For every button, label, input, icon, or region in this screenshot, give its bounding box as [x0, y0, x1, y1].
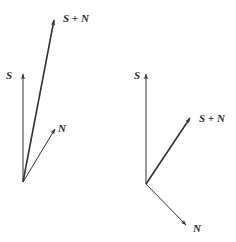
label-n-right: N	[193, 223, 201, 234]
vector-s-plus-n-right	[146, 118, 190, 184]
label-s-right: S	[134, 70, 140, 81]
label-s-plus-n-left: S + N	[63, 13, 89, 24]
label-s-plus-n-right: S + N	[199, 113, 225, 124]
diagram-left	[23, 20, 55, 182]
diagram-right	[146, 74, 190, 225]
vector-n-right	[146, 184, 186, 225]
label-n-left: N	[58, 123, 66, 134]
vector-s-plus-n-left	[23, 20, 54, 182]
label-s-left: S	[6, 70, 12, 81]
